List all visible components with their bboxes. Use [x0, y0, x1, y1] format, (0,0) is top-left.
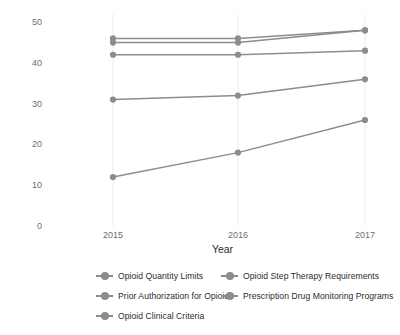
legend-item[interactable]: Opioid Quantity Limits — [96, 268, 203, 284]
data-point — [110, 174, 116, 180]
x-axis-title: Year — [45, 243, 400, 255]
legend-marker-icon — [96, 269, 113, 283]
plot-panel — [45, 14, 395, 226]
legend-item[interactable]: Opioid Clinical Criteria — [96, 308, 204, 324]
legend-marker-icon — [96, 289, 113, 303]
legend-item[interactable]: Prior Authorization for Opioids — [96, 288, 234, 304]
legend-label: Opioid Step Therapy Requirements — [243, 271, 379, 281]
plot-area — [45, 14, 395, 226]
data-point — [110, 52, 116, 58]
chart-legend: Opioid Quantity LimitsOpioid Step Therap… — [96, 268, 396, 330]
data-point — [235, 92, 241, 98]
legend-item[interactable]: Opioid Step Therapy Requirements — [221, 268, 379, 284]
series-line — [113, 120, 365, 177]
data-point — [235, 52, 241, 58]
legend-label: Opioid Clinical Criteria — [118, 311, 204, 321]
data-point — [110, 97, 116, 103]
line-chart: Number of states adopting policy 0102030… — [0, 0, 400, 335]
y-tick-label: 20 — [16, 139, 42, 149]
data-point — [110, 39, 116, 45]
y-tick-label: 0 — [16, 221, 42, 231]
legend-marker-icon — [221, 289, 238, 303]
y-tick-label: 10 — [16, 180, 42, 190]
y-tick-label: 40 — [16, 58, 42, 68]
data-point — [362, 48, 368, 54]
legend-label: Prior Authorization for Opioids — [118, 291, 234, 301]
legend-label: Prescription Drug Monitoring Programs — [243, 291, 393, 301]
data-point — [362, 76, 368, 82]
legend-item[interactable]: Prescription Drug Monitoring Programs — [221, 288, 393, 304]
data-point — [362, 27, 368, 33]
data-point — [362, 117, 368, 123]
x-tick-label: 2015 — [91, 230, 135, 240]
legend-marker-icon — [96, 309, 113, 323]
data-point — [235, 39, 241, 45]
x-tick-label: 2017 — [343, 230, 387, 240]
y-axis-tick-labels: 01020304050 — [12, 0, 42, 335]
y-tick-label: 30 — [16, 99, 42, 109]
legend-label: Opioid Quantity Limits — [118, 271, 203, 281]
legend-marker-icon — [221, 269, 238, 283]
y-tick-label: 50 — [16, 17, 42, 27]
x-tick-label: 2016 — [216, 230, 260, 240]
data-point — [235, 150, 241, 156]
